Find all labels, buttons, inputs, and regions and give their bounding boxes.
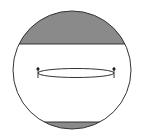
slice-ellipse [38, 69, 114, 78]
bottom-cap [0, 122, 143, 137]
right-marker [112, 67, 115, 78]
left-marker [36, 67, 39, 78]
sphere-diagram [0, 0, 143, 137]
